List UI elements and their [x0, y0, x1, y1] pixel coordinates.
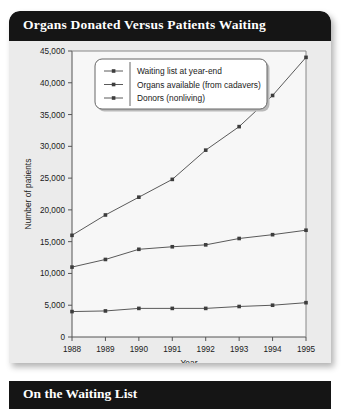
legend-label: Donors (nonliving)	[137, 93, 205, 103]
data-point-marker	[271, 303, 275, 307]
legend-marker-point	[112, 83, 116, 87]
data-point-marker	[237, 125, 241, 129]
chart-plot-area: 05,00010,00015,00020,00025,00030,00035,0…	[9, 41, 331, 363]
y-axis-tick-label: 30,000	[40, 142, 65, 151]
data-point-marker	[104, 213, 108, 217]
line-chart: 05,00010,00015,00020,00025,00030,00035,0…	[9, 41, 331, 363]
data-point-marker	[104, 258, 108, 262]
data-point-marker	[70, 265, 74, 269]
data-point-marker	[137, 247, 141, 251]
data-point-marker	[204, 307, 208, 311]
bottom-section-title: On the Waiting List	[23, 386, 137, 402]
data-point-marker	[204, 148, 208, 152]
y-axis-tick-label: 5,000	[45, 301, 66, 310]
data-point-marker	[170, 307, 174, 311]
y-axis-tick-label: 25,000	[40, 174, 65, 183]
data-point-marker	[170, 178, 174, 182]
x-axis-tick-label: 1995	[297, 345, 316, 354]
data-point-marker	[204, 243, 208, 247]
page-title: Organs Donated Versus Patients Waiting	[23, 17, 266, 33]
y-axis-tick-label: 35,000	[40, 111, 65, 120]
data-point-marker	[170, 245, 174, 249]
data-point-marker	[271, 94, 275, 98]
y-axis-tick-label: 10,000	[40, 269, 65, 278]
data-point-marker	[137, 195, 141, 199]
x-axis-tick-label: 1989	[96, 345, 115, 354]
data-point-marker	[271, 233, 275, 237]
legend-label: Waiting list at year-end	[137, 66, 222, 76]
data-point-marker	[137, 307, 141, 311]
data-point-marker	[70, 234, 74, 238]
legend-label: Organs available (from cadavers)	[137, 80, 261, 90]
x-axis-tick-label: 1990	[130, 345, 149, 354]
x-axis-tick-label: 1994	[263, 345, 282, 354]
data-point-marker	[304, 228, 308, 232]
chart-legend: Waiting list at year-endOrgans available…	[95, 59, 270, 112]
y-axis-tick-label: 40,000	[40, 79, 65, 88]
data-point-marker	[237, 305, 241, 309]
bottom-section-bar: On the Waiting List	[9, 381, 331, 409]
y-axis-tick-label: 15,000	[40, 238, 65, 247]
data-point-marker	[104, 309, 108, 313]
chart-card: Organs Donated Versus Patients Waiting 0…	[9, 11, 331, 363]
x-axis-tick-label: 1988	[63, 345, 82, 354]
legend-marker-point	[112, 96, 116, 100]
card-header-bar: Organs Donated Versus Patients Waiting	[9, 11, 331, 41]
data-point-marker	[304, 301, 308, 305]
data-point-marker	[304, 56, 308, 60]
x-axis-tick-label: 1993	[230, 345, 249, 354]
data-point-marker	[70, 310, 74, 314]
y-axis-tick-label: 0	[60, 333, 65, 342]
y-axis-tick-label: 45,000	[40, 47, 65, 56]
y-axis-title: Number of patients	[23, 159, 33, 230]
x-axis-tick-label: 1992	[197, 345, 216, 354]
x-axis-title: Year	[181, 358, 198, 363]
legend-marker-point	[112, 69, 116, 73]
data-point-marker	[237, 237, 241, 241]
y-axis-tick-label: 20,000	[40, 206, 65, 215]
x-axis-tick-label: 1991	[163, 345, 182, 354]
